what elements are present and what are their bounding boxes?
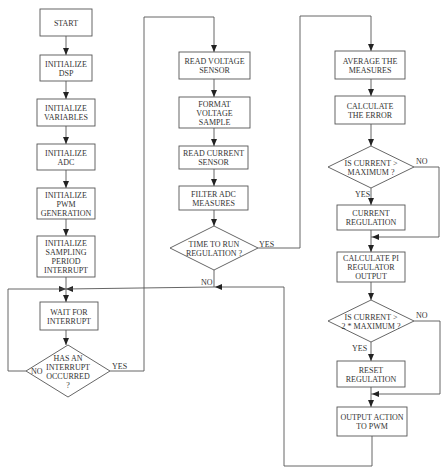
arrow-left-icon <box>215 284 222 290</box>
node-text-line: SENSOR <box>198 158 229 167</box>
connector-return <box>66 287 214 289</box>
arrow-down-icon <box>368 139 374 146</box>
node-text-line: REGULATION ? <box>186 249 243 258</box>
node-text-line: DSP <box>59 69 74 78</box>
node-filter-adc: FILTER ADCMEASURES <box>179 186 248 210</box>
node-wait: WAIT FORINTERRUPT <box>40 302 98 330</box>
flowchart: STARTINITIALIZEDSPINITIALIZEVARIABLESINI… <box>0 0 447 475</box>
node-text-line: INITIALIZE <box>45 239 87 248</box>
node-text-line: TIME TO RUN <box>189 240 240 249</box>
node-calc-pi: CALCULATE PIREGULATOROUTPUT <box>337 252 405 282</box>
node-start: START <box>40 9 92 36</box>
node-text-line: OUTPUT ACTION <box>340 413 403 422</box>
node-text-line: PWM <box>56 200 75 209</box>
arrow-down-icon <box>368 44 374 51</box>
label-no-interrupt: NO <box>31 367 43 376</box>
node-text-line: VOLTAGE <box>196 109 233 118</box>
node-current-reg: CURRENTREGULATION <box>337 205 405 230</box>
node-text-line: IS CURRENT > <box>345 313 398 322</box>
label-yes-2max: YES <box>352 344 367 353</box>
arrow-down-icon <box>63 229 69 236</box>
node-text-line: THE ERROR <box>348 111 393 120</box>
node-text-line: INTERRUPT <box>47 317 91 326</box>
node-reset-reg: RESETREGULATION <box>337 361 405 387</box>
arrow-down-icon <box>63 338 69 345</box>
node-text-line: INITIALIZE <box>45 149 87 158</box>
label-no-max: NO <box>416 157 428 166</box>
node-is-current-max: IS CURRENT >MAXIMUM ? <box>328 146 414 188</box>
node-text-line: SAMPLING <box>46 248 87 257</box>
node-is-current-2max: IS CURRENT >2 * MAXIMUM ? <box>328 300 414 342</box>
arrow-down-icon <box>63 92 69 99</box>
node-text-line: HAS AN <box>53 354 82 363</box>
node-format-voltage: FORMATVOLTAGESAMPLE <box>179 97 250 128</box>
node-text-line: SAMPLE <box>199 118 231 127</box>
arrow-down-icon <box>211 45 217 52</box>
label-yes-interrupt: YES <box>112 362 127 371</box>
arrow-down-icon <box>211 179 217 186</box>
node-text-line: CURRENT <box>352 209 389 218</box>
arrow-down-icon <box>211 90 217 97</box>
label-yes-time: YES <box>259 240 274 249</box>
node-text-line: OCCURRED <box>46 372 90 381</box>
nodes: STARTINITIALIZEDSPINITIALIZEVARIABLESINI… <box>26 9 414 436</box>
arrow-down-icon <box>211 219 217 226</box>
node-init-sampling: INITIALIZESAMPLINGPERIODINTERRUPT <box>37 236 95 277</box>
arrow-down-icon <box>368 400 374 407</box>
arrow-down-icon <box>63 181 69 188</box>
node-read-current: READ CURRENTSENSOR <box>179 146 248 169</box>
node-init-dsp: INITIALIZEDSP <box>40 55 92 81</box>
node-text-line: PERIOD <box>52 257 81 266</box>
node-init-vars: INITIALIZEVARIABLES <box>37 99 95 126</box>
arrow-left-icon <box>372 234 379 240</box>
node-text-line: RESET <box>359 366 384 375</box>
node-output-pwm: OUTPUT ACTIONTO PWM <box>337 407 407 436</box>
node-text-line: SENSOR <box>199 66 230 75</box>
node-text-line: REGULATION <box>346 375 397 384</box>
node-text-line: START <box>54 19 78 28</box>
node-text-line: INITIALIZE <box>45 191 87 200</box>
node-text-line: REGULATOR <box>347 263 395 272</box>
node-text-line: VARIABLES <box>44 113 88 122</box>
node-read-voltage: READ VOLTAGESENSOR <box>179 52 250 79</box>
node-text-line: MEASURES <box>349 66 392 75</box>
node-text-line: AVERAGE THE <box>343 57 398 66</box>
node-text-line: MAXIMUM ? <box>348 168 395 177</box>
arrow-down-icon <box>63 295 69 302</box>
node-text-line: FILTER ADC <box>191 190 236 199</box>
node-average: AVERAGE THEMEASURES <box>335 51 405 79</box>
node-text-line: INITIALIZE <box>45 60 87 69</box>
node-text-line: CALCULATE <box>347 102 394 111</box>
node-text-line: REGULATION <box>346 218 397 227</box>
label-no-time: NO <box>201 278 213 287</box>
node-text-line: ADC <box>58 158 75 167</box>
node-text-line: INITIALIZE <box>45 104 87 113</box>
node-text-line: OUTPUT <box>355 272 387 281</box>
label-no-2max: NO <box>416 311 428 320</box>
arrow-down-icon <box>368 245 374 252</box>
arrow-left-icon <box>372 391 379 397</box>
arrow-down-icon <box>368 354 374 361</box>
node-text-line: MEASURES <box>192 199 235 208</box>
node-text-line: CALCULATE PI <box>343 254 399 263</box>
label-yes-max: YES <box>355 190 370 199</box>
node-text-line: TO PWM <box>356 422 388 431</box>
node-text-line: WAIT FOR <box>50 308 88 317</box>
arrow-down-icon <box>368 198 374 205</box>
node-calc-error: CALCULATETHE ERROR <box>335 96 405 124</box>
arrow-down-icon <box>211 139 217 146</box>
node-text-line: READ VOLTAGE <box>184 57 244 66</box>
node-text-line: INTERRUPT <box>46 363 90 372</box>
arrow-down-icon <box>63 48 69 55</box>
node-text-line: GENERATION <box>41 209 92 218</box>
node-init-pwm: INITIALIZEPWMGENERATION <box>37 188 95 219</box>
node-init-adc: INITIALIZEADC <box>37 144 95 170</box>
node-time-to-run: TIME TO RUNREGULATION ? <box>170 226 258 270</box>
arrow-down-icon <box>368 293 374 300</box>
node-text-line: 2 * MAXIMUM ? <box>342 322 401 331</box>
node-text-line: READ CURRENT <box>183 149 244 158</box>
node-text-line: FORMAT <box>198 100 231 109</box>
node-text-line: IS CURRENT > <box>345 159 398 168</box>
node-text-line: INTERRUPT <box>44 266 88 275</box>
arrow-down-icon <box>63 137 69 144</box>
